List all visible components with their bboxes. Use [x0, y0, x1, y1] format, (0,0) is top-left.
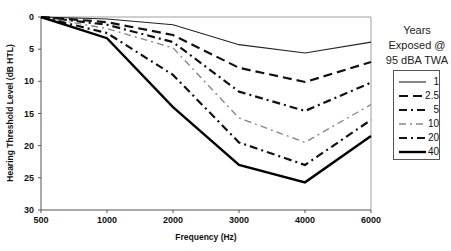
legend-title-line: Exposed @ — [383, 38, 451, 53]
legend-swatch-icon — [397, 145, 427, 159]
y-tick-label: 15 — [24, 109, 34, 119]
series-line-10yr — [41, 17, 371, 142]
series-line-5yr — [41, 17, 371, 111]
legend-label: 20 — [428, 131, 439, 145]
x-tick-label: 1000 — [97, 215, 117, 225]
legend-label: 5 — [433, 103, 439, 117]
series-line-20yr — [41, 17, 371, 165]
series-line-40yr — [41, 17, 371, 182]
legend-item: 20 — [394, 131, 441, 145]
legend-title-line: 95 dBA TWA — [383, 53, 451, 68]
x-tick-label: 500 — [33, 215, 48, 225]
legend-swatch-icon — [397, 131, 427, 145]
legend-label: 1 — [433, 75, 439, 89]
legend-label: 2.5 — [425, 89, 439, 103]
y-ticks: 051015202530 — [24, 12, 41, 215]
legend-item: 40 — [394, 145, 441, 159]
x-axis-title: Frequency (Hz) — [175, 232, 237, 242]
legend-swatch-icon — [397, 75, 427, 89]
legend-swatch-icon — [397, 117, 427, 131]
legend-swatch-icon — [397, 89, 427, 103]
legend-item: 1 — [394, 75, 441, 89]
x-tick-label: 6000 — [361, 215, 381, 225]
series-line-2-5yr — [41, 17, 371, 82]
legend-title-line: Years — [383, 23, 451, 38]
x-tick-label: 4000 — [295, 215, 315, 225]
y-tick-label: 20 — [24, 141, 34, 151]
series-lines — [41, 17, 371, 182]
y-tick-label: 30 — [24, 205, 34, 215]
legend-label: 40 — [428, 145, 439, 159]
legend-item: 10 — [394, 117, 441, 131]
x-ticks: 50010002000300040006000 — [33, 210, 381, 225]
legend-label: 10 — [428, 117, 439, 131]
y-axis-title: Hearing Threshold Level (dB HTL) — [5, 44, 15, 182]
y-tick-label: 5 — [29, 44, 34, 54]
legend-swatch-icon — [397, 103, 427, 117]
y-tick-label: 10 — [24, 76, 34, 86]
legend-item: 5 — [394, 103, 441, 117]
y-tick-label: 0 — [29, 12, 34, 22]
legend-title: Years Exposed @ 95 dBA TWA — [383, 23, 451, 68]
x-tick-label: 2000 — [163, 215, 183, 225]
legend-item: 2.5 — [394, 89, 441, 103]
x-tick-label: 3000 — [229, 215, 249, 225]
y-tick-label: 25 — [24, 173, 34, 183]
legend: 12.55102040 — [393, 70, 440, 160]
